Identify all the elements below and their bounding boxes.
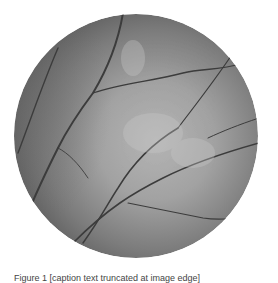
figure-caption: Figure 1 [caption text truncated at imag… (14, 273, 274, 283)
fundus-image (13, 13, 259, 259)
